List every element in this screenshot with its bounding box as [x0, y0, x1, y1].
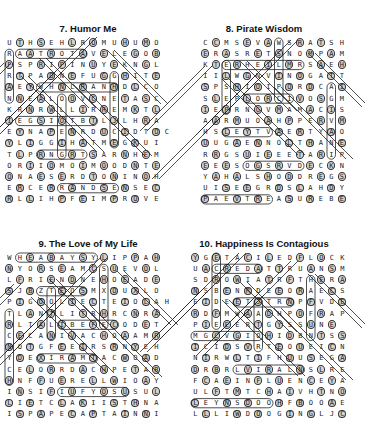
grid-letter: D	[120, 160, 131, 171]
grid-letter: O	[274, 171, 285, 182]
puzzle-title: 10. Happiness Is Contagious	[176, 238, 352, 249]
grid-letter: T	[4, 149, 15, 160]
grid-letter: G	[326, 171, 337, 182]
grid-letter: S	[36, 115, 47, 126]
grid-row: EEESOGSRVDECKN	[200, 160, 347, 171]
grid-letter: S	[211, 127, 222, 138]
grid-letter: T	[88, 115, 99, 126]
grid-letter: A	[232, 252, 243, 263]
grid-letter: E	[232, 127, 243, 138]
grid-letter: N	[78, 59, 89, 70]
grid-letter: H	[130, 149, 141, 160]
grid-letter: P	[130, 252, 141, 263]
grid-letter: F	[306, 308, 317, 319]
grid-letter: R	[4, 48, 15, 59]
grid-letter: A	[78, 330, 89, 341]
grid-letter: L	[284, 138, 295, 149]
grid-letter: S	[285, 319, 296, 330]
grid-letter: S	[327, 263, 338, 274]
grid-letter: I	[253, 364, 264, 375]
grid-letter: O	[88, 37, 99, 48]
grid-letter: C	[306, 375, 317, 386]
grid-letter: A	[36, 71, 47, 82]
grid-letter: U	[295, 263, 306, 274]
grid-letter: A	[201, 263, 212, 274]
grid-letter: M	[284, 59, 295, 70]
grid-letter: X	[99, 286, 110, 297]
grid-letter: G	[109, 71, 120, 82]
grid-letter: I	[99, 398, 110, 409]
grid-letter: S	[15, 409, 26, 420]
grid-letter: S	[232, 342, 243, 353]
grid-letter: E	[67, 342, 78, 353]
grid-letter: N	[109, 171, 120, 182]
grid-letter: U	[190, 386, 201, 397]
grid-row: KTERHEILMRSAEH	[200, 59, 347, 70]
grid-letter: H	[15, 252, 26, 263]
grid-letter: T	[78, 308, 89, 319]
grid-letter: S	[46, 263, 57, 274]
grid-letter: U	[295, 342, 306, 353]
grid-row: IEPRNGVMAMACIS	[200, 104, 347, 115]
grid-letter: S	[200, 93, 211, 104]
grid-letter: F	[190, 375, 201, 386]
grid-letter: V	[295, 386, 306, 397]
grid-letter: E	[242, 138, 253, 149]
grid-letter: R	[88, 342, 99, 353]
grid-letter: T	[211, 59, 222, 70]
grid-letter: E	[242, 37, 253, 48]
grid-letter: R	[36, 59, 47, 70]
grid-letter: H	[306, 274, 317, 285]
grid-letter: E	[151, 160, 162, 171]
grid-letter: P	[120, 252, 131, 263]
grid-letter: G	[201, 252, 212, 263]
grid-letter: G	[274, 409, 285, 420]
grid-letter: I	[263, 59, 274, 70]
grid-row: PIEEERTGYSSUNE	[190, 319, 337, 330]
grid-row: IEGSIOTBTLJLHRA	[4, 115, 162, 126]
grid-letter: A	[305, 183, 316, 194]
grid-letter: R	[4, 71, 15, 82]
grid-letter: H	[274, 308, 285, 319]
grid-letter: A	[36, 252, 47, 263]
grid-letter: S	[109, 398, 120, 409]
puzzle-8: 8. Pirate Wisdom CCMSEVAWSRATSHERASRETSN…	[176, 0, 352, 215]
grid-letter: W	[36, 82, 47, 93]
grid-letter: Y	[274, 319, 285, 330]
grid-letter: O	[109, 274, 120, 285]
grid-letter: S	[200, 82, 211, 93]
grid-letter: D	[243, 398, 254, 409]
grid-letter: M	[232, 386, 243, 397]
grid-letter: H	[263, 171, 274, 182]
grid-letter: U	[88, 59, 99, 70]
grid-letter: C	[151, 93, 162, 104]
grid-letter: S	[326, 37, 337, 48]
grid-letter: T	[295, 149, 306, 160]
grid-letter: F	[78, 386, 89, 397]
grid-letter: E	[15, 82, 26, 93]
grid-letter: F	[285, 274, 296, 285]
grid-letter: R	[46, 48, 57, 59]
grid-letter: E	[120, 274, 131, 285]
grid-letter: C	[200, 37, 211, 48]
grid-letter: T	[295, 138, 306, 149]
grid-letter: G	[306, 409, 317, 420]
grid-letter: V	[284, 160, 295, 171]
grid-letter: L	[141, 286, 152, 297]
grid-letter: R	[151, 330, 162, 341]
grid-letter: E	[57, 171, 68, 182]
grid-letter: O	[253, 398, 264, 409]
grid-letter: E	[109, 138, 120, 149]
grid-letter: I	[211, 342, 222, 353]
grid-letter: F	[25, 375, 36, 386]
grid-letter: I	[67, 297, 78, 308]
grid-letter: D	[201, 274, 212, 285]
grid-letter: R	[211, 149, 222, 160]
grid-letter: D	[274, 183, 285, 194]
grid-letter: T	[88, 138, 99, 149]
grid-letter: I	[337, 82, 348, 93]
grid-letter: D	[78, 171, 89, 182]
grid-letter: O	[46, 160, 57, 171]
grid-letter: N	[141, 409, 152, 420]
grid-letter: E	[337, 194, 348, 205]
